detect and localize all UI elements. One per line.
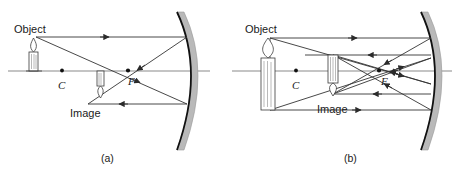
object-candle-a [26, 38, 42, 71]
focal-point-b [377, 68, 381, 72]
focal-point-a [126, 68, 130, 72]
ray-arrow-reflected-through-focus-a [137, 65, 145, 70]
image-candle-a [97, 71, 104, 98]
object-flame-a [31, 38, 37, 52]
center-of-curvature-point-b [294, 69, 298, 73]
image-candle-b [328, 55, 338, 96]
ray-arrow-upper-reflected-focus-b [384, 60, 392, 65]
label-focus-b: F [380, 75, 388, 87]
optics-figure: Object Image C F (a) [0, 0, 457, 181]
object-flame-b [263, 38, 274, 58]
image-flame-a [98, 86, 103, 98]
caption-b: (b) [344, 152, 357, 164]
caption-a: (a) [101, 152, 114, 164]
object-candle-b [261, 38, 275, 110]
label-object-b: Object [245, 23, 277, 35]
label-focus-a: F [127, 75, 135, 87]
label-image-b: Image [317, 103, 348, 115]
panel-b: Object Image C F (b) [232, 12, 452, 164]
panel-a: Object Image C F (a) [8, 12, 210, 164]
label-center-a: C [58, 79, 66, 91]
label-object-a: Object [14, 23, 46, 35]
label-center-b: C [292, 79, 300, 91]
concave-mirror-body-b [421, 12, 442, 150]
concave-mirror-body-a [177, 12, 198, 150]
ray-diagram-canvas: Object Image C F (a) [0, 0, 457, 181]
center-of-curvature-point-a [60, 69, 64, 73]
label-image-a: Image [70, 107, 101, 119]
